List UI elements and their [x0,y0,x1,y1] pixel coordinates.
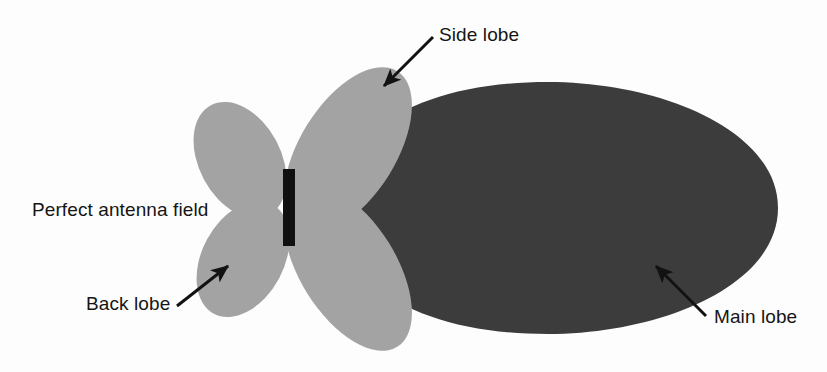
antenna-bar [283,169,295,246]
back-lobe-label: Back lobe [86,294,170,314]
perfect-antenna-field-label: Perfect antenna field [32,200,208,220]
antenna-pattern-figure: Side lobe Perfect antenna field Back lob… [0,0,827,372]
antenna-pattern-svg [0,0,827,372]
main-lobe-label: Main lobe [714,307,797,327]
side-lobe-label: Side lobe [439,25,519,45]
